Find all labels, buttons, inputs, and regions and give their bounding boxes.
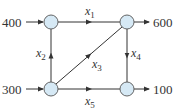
edge-label-x5: x5: [85, 95, 95, 110]
inflow-label-400: 400: [2, 16, 22, 29]
edge-label-x1: x1: [85, 5, 95, 20]
node-top-right: [120, 15, 134, 29]
edge-label-x4: x4: [131, 47, 141, 62]
inflow-label-300: 300: [2, 83, 22, 96]
edge-x3: [56, 27, 122, 84]
outflow-label-600: 600: [153, 16, 173, 29]
network-flow-diagram: 400 600 300 100 x1 x2 x3 x4 x5: [0, 0, 178, 110]
outflow-label-100: 100: [153, 83, 173, 96]
node-bottom-right: [120, 82, 134, 96]
node-bottom-left: [44, 82, 58, 96]
edge-label-x2: x2: [36, 47, 46, 62]
edge-label-x3: x3: [92, 58, 102, 73]
node-top-left: [44, 15, 58, 29]
